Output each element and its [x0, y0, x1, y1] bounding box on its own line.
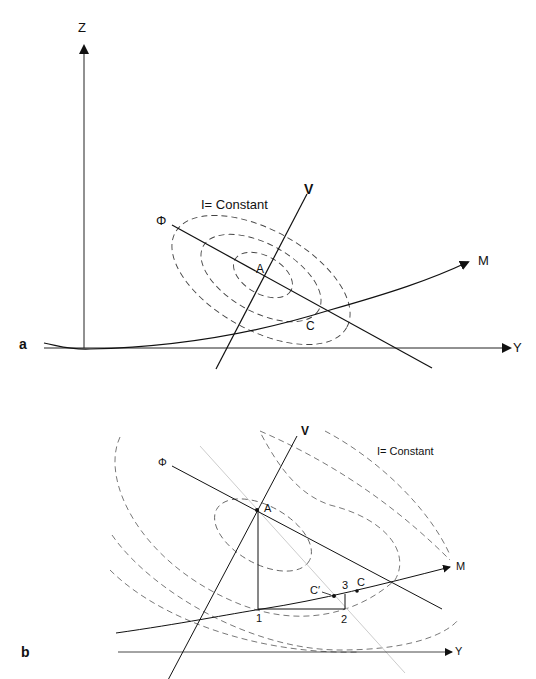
point-a-label: A: [256, 263, 264, 275]
phi-line: [172, 225, 432, 368]
z-axis-label: Z: [78, 21, 86, 34]
m-curve-b: [116, 567, 450, 633]
point-a-dot: [255, 508, 259, 512]
m-label: M: [478, 254, 489, 267]
point-a-label-b: A: [264, 503, 271, 514]
point-c-dot: [355, 589, 359, 593]
m-label-b: M: [456, 561, 465, 572]
panel-b-label: b: [21, 645, 30, 659]
phi-label: Φ: [156, 214, 166, 227]
step-2-label: 2: [341, 614, 347, 625]
contour-ellipses: [151, 189, 371, 371]
auxiliary-line: [200, 446, 405, 673]
contour-label-b: I= Constant: [377, 446, 434, 457]
v-line: [216, 194, 307, 369]
c-prime-arrow: [322, 592, 331, 595]
phi-label-b: Φ: [158, 457, 167, 468]
diagram-canvas: [0, 0, 536, 679]
panel-a: [44, 46, 510, 371]
v-label-b: V: [301, 425, 309, 437]
panel-b: [110, 431, 458, 679]
step-1-label: 1: [256, 613, 262, 624]
v-label: V: [304, 182, 313, 196]
y-axis-label: Y: [513, 341, 522, 354]
point-c-label-b: C: [357, 577, 365, 588]
contour-label: I= Constant: [201, 198, 268, 211]
point-c-prime-label: C′: [310, 585, 320, 596]
y-axis-label-b: Y: [455, 646, 462, 657]
point-c-prime-dot: [332, 594, 336, 598]
step-3-label: 3: [342, 580, 348, 591]
point-c-label: C: [306, 320, 315, 332]
v-line-b: [168, 436, 297, 679]
panel-a-label: a: [19, 337, 27, 351]
